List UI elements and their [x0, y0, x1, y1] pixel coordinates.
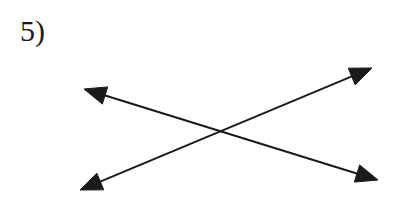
arrowhead-upper-right: [348, 68, 372, 85]
intersecting-lines-diagram: [0, 0, 401, 216]
line-ascending: [80, 68, 372, 190]
line-ascending-segment: [91, 73, 361, 186]
line-descending-segment: [96, 93, 367, 177]
figure-canvas: 5): [0, 0, 401, 216]
arrowhead-lower-left: [80, 173, 104, 190]
arrowhead-upper-left: [84, 87, 108, 104]
line-descending: [84, 87, 378, 182]
arrowhead-lower-right: [354, 165, 378, 182]
